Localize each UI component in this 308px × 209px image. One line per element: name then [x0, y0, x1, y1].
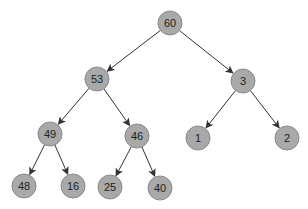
edge-arrow	[142, 147, 155, 176]
tree-nodes: 6053349461248162540	[12, 11, 299, 200]
edge-arrow	[206, 90, 236, 127]
tree-node-53: 53	[85, 67, 109, 91]
edge-arrow	[179, 31, 232, 73]
edge-arrow	[30, 145, 45, 175]
node-label: 46	[131, 130, 143, 142]
tree-node-48: 48	[12, 174, 36, 198]
edge-arrow	[250, 91, 279, 128]
edge-arrow	[116, 147, 131, 176]
edge-arrow	[107, 30, 160, 71]
edge-arrow	[104, 89, 130, 126]
tree-edges	[30, 30, 279, 176]
node-label: 60	[164, 17, 176, 29]
tree-node-2: 2	[275, 126, 299, 150]
tree-node-3: 3	[231, 69, 255, 93]
node-label: 49	[44, 128, 56, 140]
node-label: 1	[195, 132, 201, 144]
edge-arrow	[55, 145, 68, 174]
tree-node-1: 1	[186, 126, 210, 150]
tree-node-25: 25	[98, 175, 122, 199]
edge-arrow	[58, 88, 89, 124]
tree-node-46: 46	[125, 124, 149, 148]
node-label: 40	[154, 182, 166, 194]
node-label: 25	[104, 181, 116, 193]
node-label: 3	[240, 75, 246, 87]
tree-node-16: 16	[61, 174, 85, 198]
node-label: 16	[67, 180, 79, 192]
tree-node-40: 40	[148, 176, 172, 200]
tree-node-60: 60	[158, 11, 182, 35]
node-label: 53	[91, 73, 103, 85]
node-label: 2	[284, 132, 290, 144]
node-label: 48	[18, 180, 30, 192]
binary-tree-diagram: 6053349461248162540	[0, 0, 308, 209]
tree-node-49: 49	[38, 122, 62, 146]
